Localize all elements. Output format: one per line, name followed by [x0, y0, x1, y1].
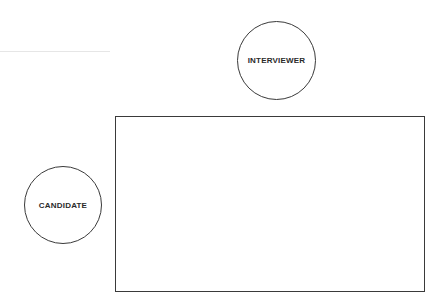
interviewer-seat: INTERVIEWER: [237, 21, 316, 100]
table: [115, 116, 425, 292]
candidate-label: CANDIDATE: [39, 201, 87, 210]
faint-line-artifact: [0, 51, 110, 52]
interviewer-label: INTERVIEWER: [248, 56, 306, 65]
candidate-seat: CANDIDATE: [24, 166, 102, 244]
